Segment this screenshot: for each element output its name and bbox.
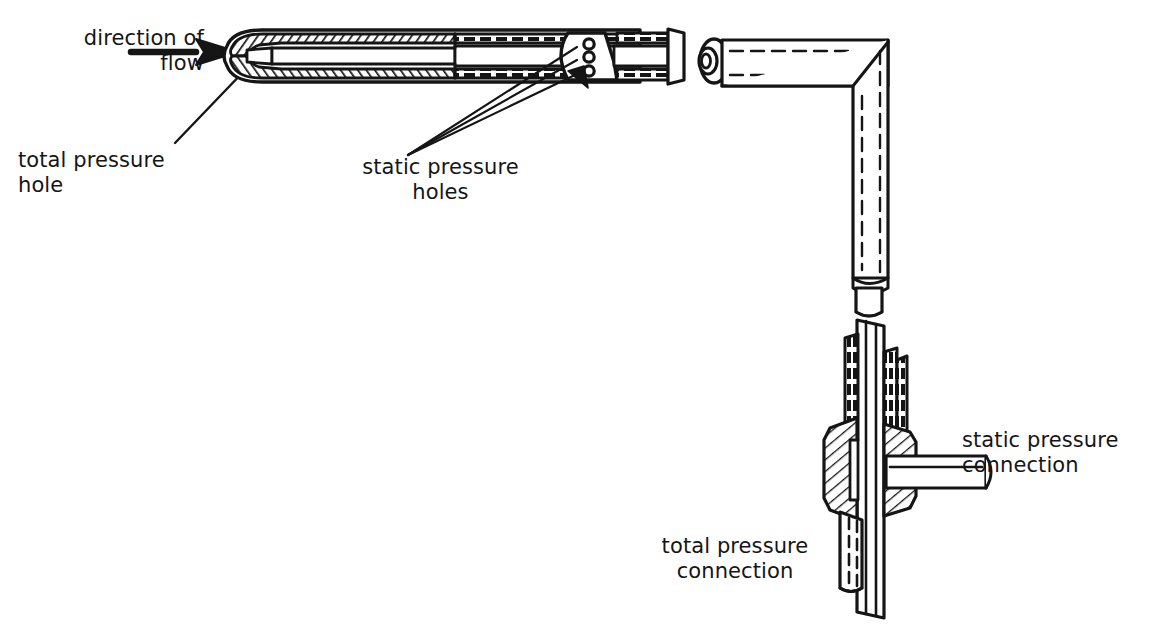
label-static-pressure-holes: static pressure holes xyxy=(318,155,563,205)
stem-bottom-stub xyxy=(853,278,888,316)
label-total-pressure-hole: total pressure hole xyxy=(18,148,218,198)
figure-canvas: direction of flow total pressure hole st… xyxy=(0,0,1155,630)
label-direction-of-flow: direction of flow xyxy=(18,26,204,76)
static-hole-1 xyxy=(584,39,594,49)
label-total-pressure-connection: total pressure connection xyxy=(610,534,860,584)
label-static-pressure-connection: static pressure connection xyxy=(962,428,1148,478)
static-hole-2 xyxy=(584,52,594,62)
pitot-static-tube-drawing xyxy=(0,0,1155,630)
total-pressure-bore xyxy=(850,440,858,500)
probe-rear-section xyxy=(614,29,684,84)
